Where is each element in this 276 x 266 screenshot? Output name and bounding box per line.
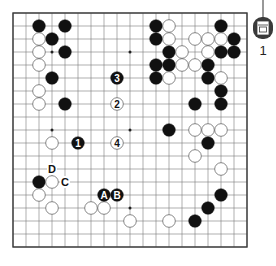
white-stone bbox=[189, 124, 202, 137]
black-stone bbox=[202, 72, 215, 85]
stones bbox=[33, 20, 241, 228]
white-stone bbox=[46, 137, 59, 150]
black-stone bbox=[33, 20, 46, 33]
white-stone bbox=[33, 46, 46, 59]
white-stone bbox=[98, 202, 111, 215]
black-stone bbox=[228, 46, 241, 59]
black-stone bbox=[228, 33, 241, 46]
black-stone bbox=[150, 20, 163, 33]
black-stone bbox=[202, 137, 215, 150]
white-stone bbox=[33, 189, 46, 202]
white-stone bbox=[215, 33, 228, 46]
white-stone bbox=[189, 59, 202, 72]
white-stone bbox=[215, 124, 228, 137]
black-stone bbox=[59, 20, 72, 33]
problem-badge: 1 bbox=[253, 0, 273, 58]
white-stone bbox=[176, 59, 189, 72]
hoshi-point bbox=[129, 51, 132, 54]
black-stone bbox=[215, 98, 228, 111]
white-stone bbox=[163, 215, 176, 228]
black-stone bbox=[59, 46, 72, 59]
white-stone bbox=[202, 46, 215, 59]
black-stone bbox=[150, 72, 163, 85]
black-stone bbox=[46, 33, 59, 46]
hoshi-point bbox=[129, 207, 132, 210]
white-stone bbox=[33, 33, 46, 46]
white-stone bbox=[215, 163, 228, 176]
move-2-stone-label: 2 bbox=[114, 99, 120, 110]
white-stone bbox=[124, 215, 137, 228]
stone-b-label: B bbox=[113, 190, 120, 201]
hoshi-point bbox=[51, 129, 54, 132]
white-stone bbox=[163, 33, 176, 46]
black-stone bbox=[215, 189, 228, 202]
white-stone bbox=[46, 202, 59, 215]
stone-a-label: A bbox=[100, 190, 107, 201]
point-label-d: D bbox=[48, 163, 56, 175]
move-3-stone-label: 3 bbox=[114, 73, 120, 84]
black-stone bbox=[215, 20, 228, 33]
white-stone bbox=[189, 33, 202, 46]
badge-number: 1 bbox=[259, 43, 266, 58]
book-icon bbox=[253, 17, 273, 39]
black-stone bbox=[150, 59, 163, 72]
move-4-stone-label: 4 bbox=[114, 138, 120, 149]
white-stone bbox=[33, 98, 46, 111]
black-stone bbox=[202, 202, 215, 215]
black-stone bbox=[215, 46, 228, 59]
hoshi-point bbox=[129, 129, 132, 132]
white-stone bbox=[176, 46, 189, 59]
black-stone bbox=[202, 59, 215, 72]
white-stone bbox=[215, 72, 228, 85]
black-stone bbox=[163, 46, 176, 59]
black-stone bbox=[150, 33, 163, 46]
black-stone bbox=[163, 59, 176, 72]
white-stone bbox=[202, 124, 215, 137]
white-stone bbox=[189, 150, 202, 163]
go-board: 1234ABCD 1 bbox=[0, 0, 276, 266]
black-stone bbox=[163, 124, 176, 137]
black-stone bbox=[46, 72, 59, 85]
white-stone bbox=[163, 72, 176, 85]
white-stone bbox=[202, 33, 215, 46]
black-stone bbox=[59, 98, 72, 111]
white-stone bbox=[33, 85, 46, 98]
hoshi-point bbox=[51, 51, 54, 54]
white-stone bbox=[85, 202, 98, 215]
black-stone bbox=[189, 215, 202, 228]
white-stone bbox=[33, 59, 46, 72]
white-stone bbox=[163, 20, 176, 33]
point-label-c: C bbox=[61, 176, 69, 188]
go-diagram: 1234ABCD 1 bbox=[0, 0, 276, 266]
white-stone bbox=[46, 176, 59, 189]
move-1-stone-label: 1 bbox=[75, 138, 81, 149]
black-stone bbox=[189, 98, 202, 111]
black-stone bbox=[33, 176, 46, 189]
black-stone bbox=[215, 85, 228, 98]
